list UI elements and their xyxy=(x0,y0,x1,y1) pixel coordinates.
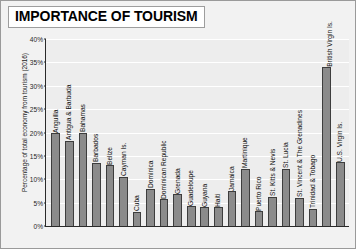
bar[interactable]: U.S. Virgin Is. xyxy=(336,162,345,226)
x-axis-tick-label: Guyana xyxy=(201,184,208,207)
bar-slot: Cayman Is. xyxy=(117,39,131,226)
chart-title-box: IMPORTANCE OF TOURISM xyxy=(8,6,205,28)
bar[interactable]: Martinique xyxy=(241,169,250,226)
x-axis-tick-label: U.S. Virgin Is. xyxy=(337,122,344,162)
y-axis-tick-label: 5% xyxy=(33,199,43,206)
page-title: IMPORTANCE OF TOURISM xyxy=(15,9,198,24)
bar[interactable]: Guyana xyxy=(200,207,209,226)
bar[interactable]: Cayman Is. xyxy=(119,177,128,226)
bar-slot: Cuba xyxy=(130,39,144,226)
bar[interactable]: St. Vincent & The Grenadines xyxy=(295,198,304,226)
bar-slot: Belize xyxy=(103,39,117,226)
y-axis-tick-label: 35% xyxy=(30,59,43,66)
x-axis-tick-label: Bahamas xyxy=(79,104,86,132)
bar[interactable]: Trinidad & Tobago xyxy=(309,209,318,226)
x-axis-tick-label: St. Lucia xyxy=(282,143,289,169)
y-axis-tick-label: 25% xyxy=(30,106,43,113)
bar-slot: U.S. Virgin Is. xyxy=(333,39,347,226)
y-axis-tick-label: 40% xyxy=(30,36,43,43)
x-axis-tick-label: Martinique xyxy=(242,138,249,169)
y-axis-tick-label: 20% xyxy=(30,129,43,136)
bar[interactable]: Dominica xyxy=(146,189,155,226)
bar-slot: Grenada xyxy=(171,39,185,226)
x-axis-tick-label: Antigua & Barbuda xyxy=(66,85,73,140)
bar[interactable]: Jamaica xyxy=(228,191,237,226)
bar-slot: Dominica xyxy=(144,39,158,226)
x-axis-tick-label: St. Kitts & Nevis xyxy=(269,149,276,196)
bar-slot: Anguilla xyxy=(49,39,63,226)
bar[interactable]: Grenada xyxy=(173,194,182,226)
x-axis-tick-label: Trinidad & Tobago xyxy=(310,155,317,208)
y-axis-title: Percentage of total economy from tourism… xyxy=(21,28,28,218)
x-axis-tick-label: Anguilla xyxy=(52,109,59,132)
bar[interactable]: Barbados xyxy=(92,163,101,226)
x-axis-tick-label: St. Vincent & The Grenadines xyxy=(296,110,303,197)
bar-slot: St. Lucia xyxy=(279,39,293,226)
bar[interactable]: Haiti xyxy=(214,207,223,226)
x-axis-tick-label: Puerto Rico xyxy=(255,176,262,210)
bar[interactable]: Dominican Republic xyxy=(160,199,169,226)
bar[interactable]: Antigua & Barbuda xyxy=(65,141,74,226)
bar[interactable]: Bahamas xyxy=(79,133,88,227)
x-axis-tick-label: Barbados xyxy=(93,134,100,162)
bar-slot: St. Vincent & The Grenadines xyxy=(293,39,307,226)
bar-slot: Antigua & Barbuda xyxy=(63,39,77,226)
bar-slot: Trinidad & Tobago xyxy=(306,39,320,226)
bar-slot: British Virgin Is. xyxy=(320,39,334,226)
bar-slot: Guyana xyxy=(198,39,212,226)
bar[interactable]: Cuba xyxy=(133,212,142,226)
bar-slot: Martinique xyxy=(239,39,253,226)
x-axis-tick-label: Belize xyxy=(106,147,113,165)
chart-container: IMPORTANCE OF TOURISM Percentage of tota… xyxy=(0,0,356,249)
x-axis-tick-label: Cayman Is. xyxy=(120,143,127,176)
plot-area: 40%35%30%25%20%15%10%5%0% AnguillaAntigu… xyxy=(45,39,349,227)
x-axis-tick-label: Grenada xyxy=(174,168,181,194)
bar[interactable]: St. Lucia xyxy=(282,169,291,226)
bar-slot: Bahamas xyxy=(76,39,90,226)
bar[interactable]: Guadeloupe xyxy=(187,206,196,226)
x-axis-tick-label: Guadeloupe xyxy=(188,170,195,206)
bar[interactable]: British Virgin Is. xyxy=(322,67,331,226)
bar-slot: Dominican Republic xyxy=(157,39,171,226)
bar-slot: Puerto Rico xyxy=(252,39,266,226)
bar-slot: St. Kitts & Nevis xyxy=(266,39,280,226)
bar[interactable]: St. Kitts & Nevis xyxy=(268,197,277,226)
y-axis-tick-label: 0% xyxy=(33,223,43,230)
bar-slot: Barbados xyxy=(90,39,104,226)
y-axis-tick-label: 15% xyxy=(30,152,43,159)
x-axis-tick-label: Haiti xyxy=(215,194,222,207)
bar[interactable]: Puerto Rico xyxy=(255,211,264,226)
x-axis-tick-label: Dominica xyxy=(147,161,154,188)
x-axis-tick-label: Cuba xyxy=(133,196,140,212)
bar[interactable]: Anguilla xyxy=(51,133,60,226)
x-axis-tick-label: Jamaica xyxy=(228,166,235,191)
x-axis-tick-label: Dominican Republic xyxy=(161,140,168,199)
bar-slot: Haiti xyxy=(212,39,226,226)
y-axis-tick-label: 10% xyxy=(30,176,43,183)
y-axis-tick-label: 30% xyxy=(30,82,43,89)
bar-series: AnguillaAntigua & BarbudaBahamasBarbados… xyxy=(46,39,349,226)
bar-slot: Jamaica xyxy=(225,39,239,226)
bar[interactable]: Belize xyxy=(106,165,115,226)
bar-slot: Guadeloupe xyxy=(184,39,198,226)
